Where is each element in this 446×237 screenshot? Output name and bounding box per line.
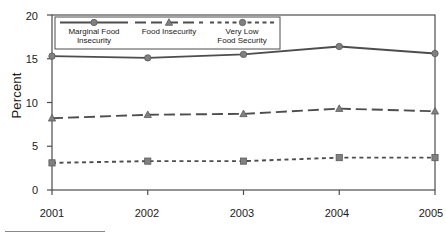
footnote-rule [5,231,105,232]
x-tick-label-2005: 2005 [408,207,446,219]
x-tick-label-2002: 2002 [124,207,170,219]
legend-label-line1: Marginal Food [57,27,131,36]
legend-label-food-insecurity: Food Insecurity [132,27,206,36]
x-tick-label-2003: 2003 [219,207,265,219]
y-tick-label-0: 0 [16,184,38,196]
series-layer [48,43,438,166]
legend-label-line2: Food Security [207,36,277,45]
y-tick-label-15: 15 [16,53,38,65]
y-tick-label-5: 5 [16,140,38,152]
legend-label-line1: Food Insecurity [132,27,206,36]
series-3 [49,155,438,166]
x-tick-marks [52,190,435,195]
series-2 [48,105,438,121]
x-tick-label-2001: 2001 [29,207,75,219]
legend-label-marginal-food-insecurity: Marginal Food Insecurity [57,27,131,45]
y-tick-label-20: 20 [16,10,38,22]
y-tick-label-10: 10 [16,97,38,109]
x-tick-label-2004: 2004 [314,207,360,219]
y-axis-title: Percent [9,56,24,136]
chart-figure: Percent 20 15 10 5 0 2001 2002 2003 2004… [0,0,446,237]
legend-label-line2: Insecurity [57,36,131,45]
legend-label-line1: Very Low [207,27,277,36]
legend-label-very-low-food-security: Very Low Food Security [207,27,277,45]
